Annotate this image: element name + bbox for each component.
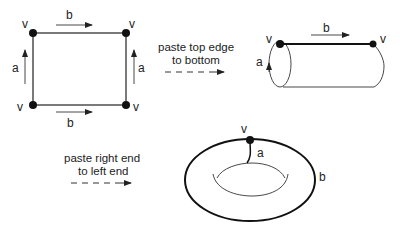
torus-figure: v a b [185,122,326,221]
top-edge-label: b [66,8,73,22]
vertex-dot [29,29,37,37]
vertex-label-bottom-left: v [17,100,23,114]
torus-construction-diagram: v v v v b b a a paste top edge to bottom… [0,0,400,227]
step1-caption: paste top edge to bottom [158,41,234,72]
step1-caption-line1: paste top edge [158,41,234,53]
vertex-dot [29,101,37,109]
torus-hole-upper [217,163,285,178]
vertex-dot [276,40,284,48]
vertex-dot [246,136,254,144]
cylinder-vertex-right-label: v [380,32,386,46]
vertex-dot [370,41,377,48]
right-edge-label: a [138,61,145,75]
cylinder-figure: v v b a [256,21,386,87]
vertex-label-top-right: v [129,17,135,31]
square-figure: v v v v b b a a [12,8,145,130]
step1-caption-line2: to bottom [172,54,220,66]
bottom-edge-label: b [67,116,74,130]
square-outline [33,33,126,105]
step2-caption-line2: to left end [78,165,129,177]
torus-vertex-label: v [241,122,247,136]
cylinder-vertex-left-label: v [266,32,272,46]
vertex-label-bottom-right: v [133,100,139,114]
torus-hole-lower [213,174,288,196]
torus-a-label: a [257,146,264,160]
torus-b-label: b [319,170,326,184]
vertex-dot [122,101,130,109]
cylinder-b-label: b [323,21,330,35]
vertex-label-top-left: v [22,17,28,31]
step2-caption-line1: paste right end [64,152,140,164]
left-edge-label: a [12,61,19,75]
cylinder-a-label: a [256,55,263,69]
cylinder-right-end [373,44,384,87]
step2-caption: paste right end to left end [64,152,140,183]
